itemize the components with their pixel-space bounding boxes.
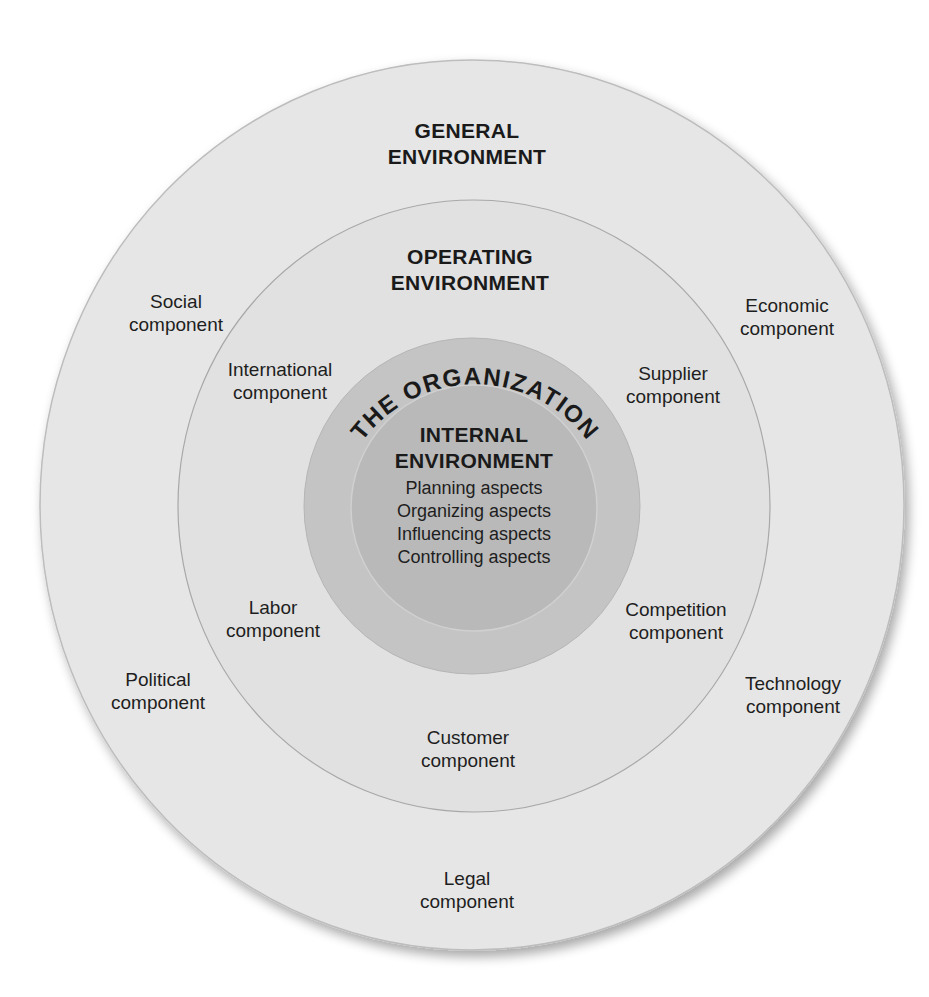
economic-component-label: Economic component [740,294,834,340]
operating-environment-title: OPERATING ENVIRONMENT [391,244,549,296]
internal-title-line1: INTERNAL [395,422,553,448]
general-title-line2: ENVIRONMENT [388,144,546,170]
operating-title-line2: ENVIRONMENT [391,270,549,296]
internal-aspects-list: Planning aspects Organizing aspects Infl… [397,477,551,569]
aspect-item: Organizing aspects [397,500,551,523]
aspect-item: Planning aspects [397,477,551,500]
competition-component-label: Competition component [625,598,726,644]
technology-component-label: Technology component [745,672,841,718]
legal-component-label: Legal component [420,867,514,913]
aspect-item: Influencing aspects [397,523,551,546]
general-title-line1: GENERAL [388,118,546,144]
internal-environment-title: INTERNAL ENVIRONMENT [395,422,553,474]
internal-title-line2: ENVIRONMENT [395,448,553,474]
supplier-component-label: Supplier component [626,362,720,408]
aspect-item: Controlling aspects [397,546,551,569]
political-component-label: Political component [111,668,205,714]
general-environment-title: GENERAL ENVIRONMENT [388,118,546,170]
operating-title-line1: OPERATING [391,244,549,270]
customer-component-label: Customer component [421,726,515,772]
international-component-label: International component [228,358,333,404]
labor-component-label: Labor component [226,596,320,642]
social-component-label: Social component [129,290,223,336]
